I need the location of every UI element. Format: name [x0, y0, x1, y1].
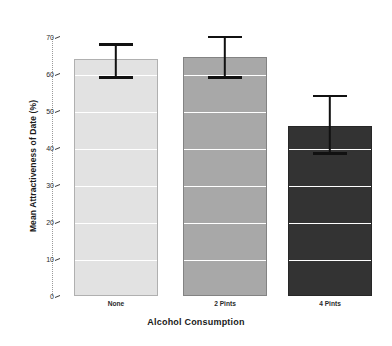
bar-gridline — [184, 112, 266, 113]
x-axis-title: Alcohol Consumption — [0, 317, 392, 327]
bar-group — [183, 10, 267, 296]
plot-area — [53, 10, 383, 296]
y-axis-tick-label: 60 — [40, 70, 54, 77]
bar-gridline — [75, 112, 157, 113]
bar-gridline — [75, 260, 157, 261]
bar[interactable] — [74, 59, 158, 296]
bar-gridline — [184, 260, 266, 261]
y-axis-title: Mean Attractiveness of Date (%) — [28, 51, 38, 281]
bar-gridline — [184, 223, 266, 224]
bar-series — [53, 10, 383, 296]
bar-gridline — [184, 186, 266, 187]
error-bar-cap-lower — [99, 76, 133, 79]
bar-gridline — [289, 186, 371, 187]
error-bar-stem — [115, 44, 117, 77]
bar-group — [288, 10, 372, 296]
bar-gridline — [75, 223, 157, 224]
x-axis-category-label: 4 Pints — [288, 300, 372, 307]
bar-group — [74, 10, 158, 296]
y-axis-tick-label: 70 — [40, 33, 54, 40]
x-axis-category-label: 2 Pints — [183, 300, 267, 307]
bar-gridline — [75, 149, 157, 150]
y-axis-tick-label: 40 — [40, 144, 54, 151]
bar-gridline — [289, 260, 371, 261]
y-axis-tick-label: 20 — [40, 218, 54, 225]
bar[interactable] — [183, 57, 267, 296]
x-axis-category-label: None — [74, 300, 158, 307]
error-bar-cap-lower — [313, 152, 347, 155]
bar-gridline — [184, 149, 266, 150]
bar-chart: Mean Attractiveness of Date (%) 01020304… — [0, 0, 392, 346]
y-axis-tick-label: 50 — [40, 107, 54, 114]
y-axis-tick-label: 30 — [40, 181, 54, 188]
error-bar-cap-upper — [313, 95, 347, 98]
y-axis-tick-label: 0 — [40, 292, 54, 299]
bar-gridline — [289, 223, 371, 224]
error-bar-cap-upper — [99, 43, 133, 46]
error-bar-cap-lower — [208, 76, 242, 79]
bar-gridline — [75, 186, 157, 187]
error-bar-stem — [329, 96, 331, 153]
y-axis-tick-label: 10 — [40, 255, 54, 262]
error-bar-cap-upper — [208, 36, 242, 39]
error-bar-stem — [224, 37, 226, 78]
